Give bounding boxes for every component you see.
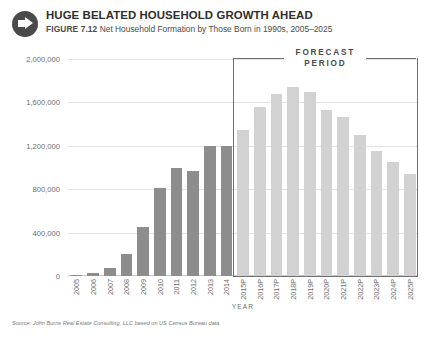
x-tick-slot: 2022P [351,278,368,304]
x-axis-tick-2015P: 2015P [239,279,248,300]
bar-2006 [87,273,99,276]
bar-slot [401,59,418,276]
y-axis-tick: 0 [56,272,60,281]
bar-2007 [104,268,116,276]
x-axis-tick-2022P: 2022P [355,279,364,300]
x-tick-slot: 2008 [118,278,135,304]
x-tick-slot: 2011 [168,278,185,304]
bar-2005 [71,275,83,276]
bar-2025P [404,174,416,276]
x-axis-title: YEAR [68,303,418,310]
x-tick-slot: 2006 [85,278,102,304]
page-title: HUGE BELATED HOUSEHOLD GROWTH AHEAD [46,9,313,21]
forecast-period-label: FORECASTPERIOD [286,48,364,69]
bar-slot [118,59,135,276]
x-axis-tick-2023P: 2023P [372,279,381,300]
bar-slot [185,59,202,276]
bar-2010 [154,188,166,276]
y-axis-tick: 800,000 [33,185,60,194]
bar-slot [135,59,152,276]
source-note: Source: John Burns Real Estate Consultin… [12,320,219,326]
x-axis-tick-2011: 2011 [172,279,181,294]
figure-description: Net Household Formation by Those Born in… [100,24,333,34]
bar-slot [268,59,285,276]
x-axis-tick-2018P: 2018P [289,279,298,300]
x-tick-slot: 2023P [368,278,385,304]
x-axis-tick-2020P: 2020P [322,279,331,300]
bar-2020P [321,110,333,276]
chart-plot-area: FORECASTPERIOD [68,59,418,276]
x-axis-tick-2021P: 2021P [339,279,348,300]
forecast-box-top-right [366,58,416,59]
bar-slot [385,59,402,276]
figure-subtitle: FIGURE 7.12 Net Household Formation by T… [46,24,332,34]
x-tick-slot: 2017P [268,278,285,304]
x-tick-slot: 2013 [201,278,218,304]
x-axis-tick-2024P: 2024P [389,279,398,300]
x-axis-tick-2013: 2013 [205,279,214,295]
bar-2012 [187,171,199,276]
bar-slot [235,59,252,276]
x-axis-tick-2006: 2006 [89,279,98,295]
bar-slot [151,59,168,276]
x-axis-tick-2007: 2007 [105,279,114,295]
y-axis-tick: 400,000 [33,228,60,237]
x-axis-tick-2016P: 2016P [255,279,264,300]
bar-slot [335,59,352,276]
bar-2022P [354,135,366,276]
x-tick-slot: 2012 [185,278,202,304]
bar-slot [285,59,302,276]
bar-2008 [121,254,133,276]
bar-2016P [254,107,266,276]
x-axis-tick-2009: 2009 [139,279,148,295]
x-tick-slot: 2019P [301,278,318,304]
bar-2019P [304,92,316,276]
bar-2018P [287,87,299,276]
x-axis-tick-2014: 2014 [222,279,231,295]
y-axis-tick: 1,600,000 [26,98,60,107]
x-tick-slot: 2020P [318,278,335,304]
x-axis-tick-2005: 2005 [72,279,81,295]
y-axis-tick-labels: 0400,000800,0001,200,0001,600,0002,000,0… [0,59,64,276]
bar-slot [318,59,335,276]
y-axis-tick: 1,200,000 [26,141,60,150]
x-axis-tick-2010: 2010 [155,279,164,295]
bar-slot [101,59,118,276]
bar-slot [85,59,102,276]
bar-series [68,59,418,276]
x-tick-slot: 2014 [218,278,235,304]
x-tick-slot: 2009 [135,278,152,304]
x-tick-slot: 2021P [335,278,352,304]
bar-slot [251,59,268,276]
x-tick-slot: 2024P [385,278,402,304]
bar-slot [168,59,185,276]
x-tick-slot: 2025P [401,278,418,304]
x-tick-slot: 2007 [101,278,118,304]
x-axis-tick-2017P: 2017P [272,279,281,300]
x-tick-slot: 2005 [68,278,85,304]
x-axis-tick-2019P: 2019P [305,279,314,300]
bar-2014 [221,146,233,276]
figure-number: FIGURE 7.12 [46,24,97,34]
x-tick-slot: 2018P [285,278,302,304]
bar-2009 [137,227,149,276]
bar-slot [368,59,385,276]
bar-2021P [337,117,349,276]
bar-slot [218,59,235,276]
bar-slot [68,59,85,276]
x-tick-slot: 2010 [151,278,168,304]
x-axis-tick-labels: 2005200620072008200920102011201220132014… [68,278,418,304]
bar-slot [351,59,368,276]
y-axis-tick: 2,000,000 [26,55,60,64]
bar-2023P [371,151,383,276]
bar-slot [201,59,218,276]
x-axis-tick-2012: 2012 [189,279,198,295]
x-axis-tick-2025P: 2025P [405,279,414,300]
bar-2015P [237,130,249,276]
bar-2017P [271,94,283,276]
figure-header: HUGE BELATED HOUSEHOLD GROWTH AHEAD FIGU… [12,9,432,41]
x-tick-slot: 2015P [235,278,252,304]
forecast-box-top-left [233,58,285,59]
bar-2024P [387,162,399,276]
bar-slot [301,59,318,276]
